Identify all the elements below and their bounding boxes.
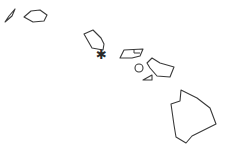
hawaii-map: ✱	[0, 0, 228, 159]
island-lanai	[135, 64, 143, 72]
island-kauai	[24, 10, 47, 22]
map-canvas: ✱	[0, 0, 228, 159]
capital-star-icon: ✱	[96, 47, 107, 62]
island-kahoolawe	[143, 75, 152, 80]
island-maui	[147, 58, 174, 77]
island-niihau	[5, 9, 15, 22]
island-hawaii	[171, 90, 216, 143]
